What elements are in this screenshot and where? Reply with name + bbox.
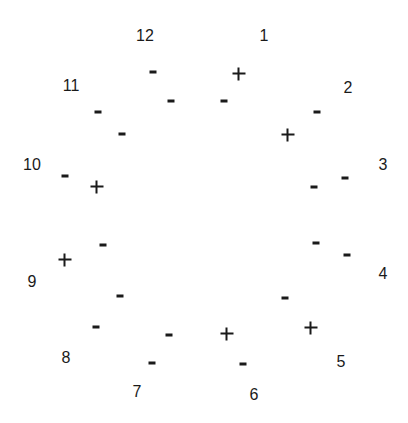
plus-icon <box>59 254 72 267</box>
plus-icon <box>305 322 318 335</box>
clock-number-9: 9 <box>28 274 37 290</box>
plus-icon <box>282 129 295 142</box>
clock-number-3: 3 <box>379 157 388 173</box>
minus-icon <box>221 100 228 103</box>
minus-icon <box>282 297 289 300</box>
minus-icon <box>313 242 320 245</box>
clock-number-6: 6 <box>250 387 259 403</box>
clock-diagram: 121234567891011 <box>0 0 408 423</box>
minus-icon <box>168 100 175 103</box>
clock-number-1: 1 <box>260 28 269 44</box>
minus-icon <box>166 334 173 337</box>
clock-number-8: 8 <box>62 350 71 366</box>
plus-icon <box>91 181 104 194</box>
minus-icon <box>311 186 318 189</box>
minus-icon <box>100 244 107 247</box>
minus-icon <box>95 111 102 114</box>
minus-icon <box>149 362 156 365</box>
clock-number-12: 12 <box>136 28 154 44</box>
clock-number-10: 10 <box>23 157 41 173</box>
clock-number-2: 2 <box>344 80 353 96</box>
minus-icon <box>119 133 126 136</box>
minus-icon <box>62 175 69 178</box>
minus-icon <box>150 71 157 74</box>
minus-icon <box>344 254 351 257</box>
plus-icon <box>233 68 246 81</box>
clock-number-5: 5 <box>337 354 346 370</box>
clock-number-7: 7 <box>133 384 142 400</box>
minus-icon <box>240 363 247 366</box>
minus-icon <box>342 177 349 180</box>
minus-icon <box>314 111 321 114</box>
minus-icon <box>93 326 100 329</box>
plus-icon <box>221 328 234 341</box>
minus-icon <box>117 295 124 298</box>
clock-number-4: 4 <box>379 266 388 282</box>
clock-number-11: 11 <box>63 78 80 94</box>
